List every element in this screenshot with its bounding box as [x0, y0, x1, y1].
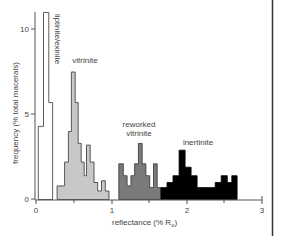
series-reworked-vitrinite: [119, 143, 161, 199]
x-tick-label-1: 1: [110, 206, 115, 215]
series-vitrinite: [57, 72, 109, 200]
y-axis-label: frequency (% total macerals): [11, 62, 20, 164]
y-tick-label-0: 0: [25, 195, 30, 204]
series-inertinite: [161, 150, 237, 199]
histogram-bar-group: [38, 13, 52, 200]
y-tick-label-10: 10: [20, 25, 29, 34]
histogram-bar-group: [119, 143, 161, 199]
label-liptinite: liptinite/exinite: [53, 14, 62, 65]
x-axis-label-close: ): [174, 218, 177, 227]
x-axis-label: reflectance (% Ro): [112, 218, 177, 228]
histogram-bar-group: [57, 72, 109, 200]
histogram-chart: 0 1 2 3 10 5 0 frequency (% total macera…: [0, 0, 281, 236]
label-inertinite: inertinite: [183, 138, 214, 147]
histogram-bars: [38, 13, 237, 200]
histogram-bar-group: [161, 150, 237, 199]
label-reworked: reworked: [123, 120, 156, 129]
x-axis-label-main: reflectance (% R: [112, 218, 171, 227]
series-liptinite-exinite: [38, 13, 52, 200]
y-tick-label-5: 5: [25, 110, 30, 119]
label-vitrinite: vitrinite: [72, 56, 98, 65]
x-tick-label-2: 2: [185, 206, 190, 215]
x-tick-label-3: 3: [260, 206, 265, 215]
x-tick-label-0: 0: [34, 206, 39, 215]
label-reworked-vitrinite: vitrinite: [126, 129, 152, 138]
